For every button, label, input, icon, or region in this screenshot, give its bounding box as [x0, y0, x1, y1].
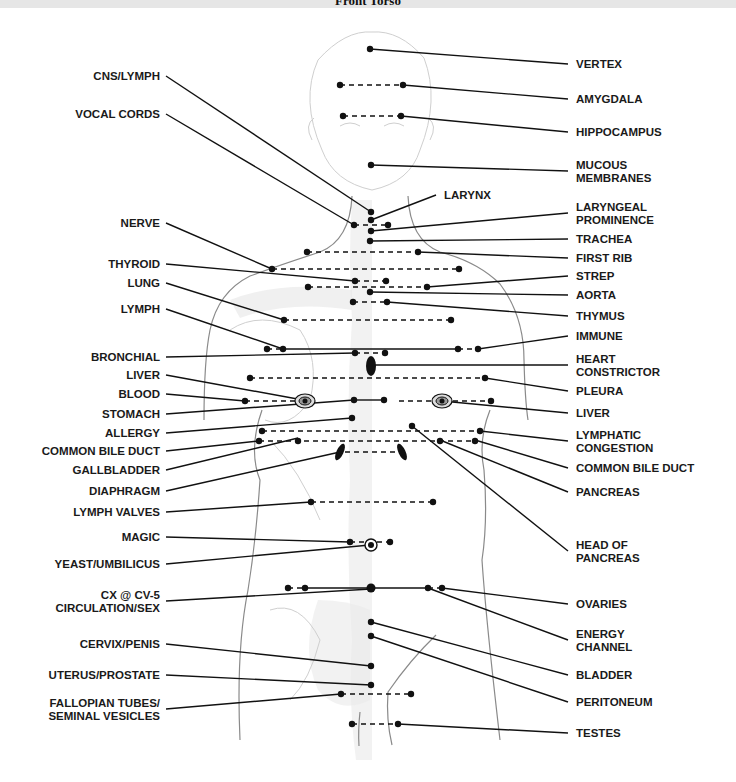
label-line: ENERGY [576, 628, 625, 640]
acupoint-dot [368, 682, 374, 688]
label-line: IMMUNE [576, 330, 623, 342]
label-nerve: NERVE [121, 217, 161, 229]
acupoint-dot [368, 228, 374, 234]
label-line: LARYNGEAL [576, 201, 647, 213]
pancreas-leader-line [440, 440, 568, 492]
acupoint-dot [425, 585, 431, 591]
label-line: GALLBLADDER [72, 464, 160, 476]
acupoint-dot [455, 346, 461, 352]
label-line: CONSTRICTOR [576, 366, 661, 378]
label-lymph-valves: LYMPH VALVES [73, 506, 160, 518]
label-pancreas: PANCREAS [576, 486, 640, 498]
label-line: LIVER [576, 407, 611, 419]
acupoint-dot [352, 278, 358, 284]
bladder-leader-line [371, 622, 568, 675]
acupoint-dot [437, 438, 443, 444]
torso-acupoint-diagram: CNS/LYMPHVOCAL CORDSNERVETHYROIDLUNGLYMP… [0, 0, 736, 782]
acupoint-dot [351, 397, 357, 403]
label-line: MAGIC [122, 531, 160, 543]
label-line: CX @ CV-5 [101, 589, 161, 601]
acupoint-dot [430, 499, 436, 505]
label-line: PANCREAS [576, 552, 640, 564]
cns-lymph-leader-line [166, 76, 371, 212]
label-line: PLEURA [576, 385, 623, 397]
hippocampus-leader-line [401, 116, 568, 132]
lymph-valves-leader-line [166, 502, 311, 512]
label-line: TESTES [576, 727, 621, 739]
label-aorta: AORTA [576, 289, 616, 301]
acupoint-dot [305, 284, 311, 290]
label-line: CIRCULATION/SEX [55, 602, 160, 614]
mucous-membranes-leader-line [371, 165, 568, 171]
ovaries-leader-line [442, 588, 568, 604]
acupoint-dot [448, 317, 454, 323]
label-line: SEMINAL VESICLES [48, 710, 160, 722]
label-line: COMMON BILE DUCT [42, 445, 160, 457]
label-line: CERVIX/PENIS [80, 638, 161, 650]
umbilicus-ring-marker [365, 539, 377, 551]
vertex-leader-line [370, 49, 568, 64]
label-lymphatic-congestion: LYMPHATICCONGESTION [576, 429, 653, 454]
label-line: CONGESTION [576, 442, 653, 454]
label-liver-right: LIVER [576, 407, 611, 419]
acupoint-dot [367, 238, 373, 244]
liver-right-leader-line [442, 401, 568, 413]
acupoint-dot [409, 423, 415, 429]
label-line: CNS/LYMPH [93, 70, 160, 82]
label-line: BRONCHIAL [91, 351, 160, 363]
nerve-leader-line [166, 223, 272, 269]
label-line: LYMPH [121, 303, 160, 315]
strep-leader-line [427, 276, 568, 287]
acupoint-dot [368, 209, 374, 215]
label-line: HIPPOCAMPUS [576, 126, 662, 138]
vocal-cords-leader-line [166, 114, 354, 225]
label-line: BLADDER [576, 669, 633, 681]
label-yeast-umbilicus: YEAST/UMBILICUS [55, 558, 161, 570]
label-liver-left: LIVER [126, 369, 161, 381]
label-line: AMYGDALA [576, 93, 642, 105]
diaphragm-leader-line [166, 452, 340, 491]
testes-leader-line [398, 724, 568, 733]
acupoint-dot-large [367, 584, 376, 593]
oval-marker [366, 356, 376, 376]
acupoint-dot [385, 222, 391, 228]
label-strep: STREP [576, 270, 615, 282]
label-heart-constrictor: HEARTCONSTRICTOR [576, 353, 661, 378]
acupoint-dot [408, 691, 414, 697]
label-trachea: TRACHEA [576, 233, 632, 245]
label-line: PROMINENCE [576, 214, 654, 226]
label-fallopian-tubes: FALLOPIAN TUBES/SEMINAL VESICLES [48, 697, 160, 722]
acupoint-dot [337, 82, 343, 88]
oval-marker [333, 442, 347, 461]
label-thymus: THYMUS [576, 310, 625, 322]
acupoint-dot [367, 46, 373, 52]
peritoneum-leader-line [371, 636, 568, 702]
label-laryngeal-prominence: LARYNGEALPROMINENCE [576, 201, 654, 226]
aorta-leader-line [370, 292, 568, 295]
label-line: DIAPHRAGM [89, 485, 160, 497]
label-common-bile-duct-right: COMMON BILE DUCT [576, 462, 694, 474]
amygdala-leader-line [403, 85, 568, 99]
label-line: HEAD OF [576, 539, 628, 551]
label-mucous-membranes: MUCOUSMEMBRANES [576, 159, 652, 184]
label-line: VERTEX [576, 58, 622, 70]
acupoint-dot [400, 82, 406, 88]
label-head-of-pancreas: HEAD OFPANCREAS [576, 539, 640, 564]
target-marker [295, 394, 315, 408]
label-stomach: STOMACH [102, 408, 160, 420]
thyroid-leader-line [166, 264, 355, 281]
label-line: PERITONEUM [576, 696, 652, 708]
acupoint-dot [338, 691, 344, 697]
acupoint-dot [349, 415, 355, 421]
acupoint-dot [368, 162, 374, 168]
label-line: YEAST/UMBILICUS [55, 558, 161, 570]
acupoint-dot [349, 721, 355, 727]
acupoint-dot [259, 428, 265, 434]
acupoint-dot [281, 317, 287, 323]
acupoint-dot [242, 398, 248, 404]
label-diaphragm: DIAPHRAGM [89, 485, 160, 497]
fallopian-tubes-leader-line [166, 694, 341, 709]
larynx-leader-line [371, 195, 436, 220]
acupoint-dot [302, 585, 308, 591]
label-line: CHANNEL [576, 641, 632, 653]
